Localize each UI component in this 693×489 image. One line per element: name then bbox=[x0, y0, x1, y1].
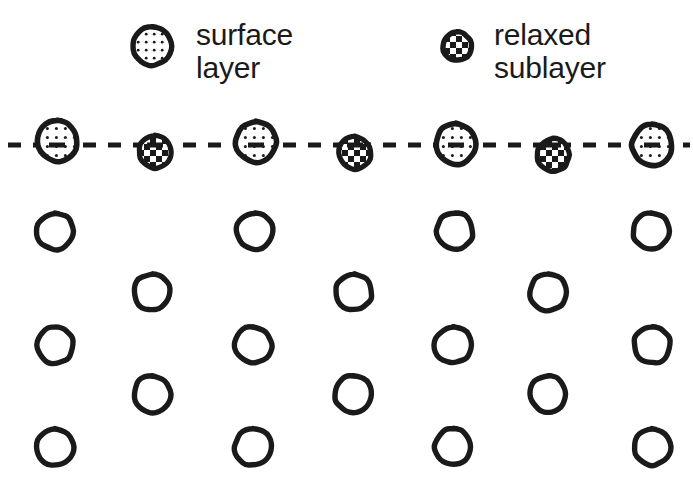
bulk-atom bbox=[634, 327, 670, 363]
bulk-row-3 bbox=[37, 327, 670, 364]
bulk-atom bbox=[530, 376, 566, 413]
bulk-atom bbox=[37, 213, 74, 250]
bulk-atom bbox=[236, 213, 273, 250]
bulk-row-4 bbox=[134, 376, 565, 413]
bulk-atom bbox=[336, 274, 372, 310]
bulk-row-1 bbox=[37, 213, 670, 250]
bulk-atom bbox=[134, 376, 171, 413]
bulk-lattice-rows bbox=[37, 213, 672, 466]
bulk-row-5 bbox=[37, 429, 671, 466]
bulk-row-2 bbox=[134, 274, 566, 311]
surface-layer-atom bbox=[37, 120, 76, 162]
relaxed-sublayer-atom bbox=[339, 136, 371, 169]
bulk-atom bbox=[434, 327, 471, 363]
bulk-atom bbox=[434, 429, 470, 465]
checkered-circle-icon bbox=[443, 32, 472, 60]
legend-label-relaxed-sublayer: relaxed sublayer bbox=[494, 18, 606, 84]
bulk-atom bbox=[234, 327, 272, 363]
bulk-atom bbox=[335, 376, 371, 413]
bulk-atom bbox=[134, 274, 170, 310]
legend-label-surface-layer: surface layer bbox=[196, 18, 293, 84]
surface-relaxation-figure: surface layer relaxed sublayer bbox=[0, 0, 693, 489]
bulk-atom bbox=[635, 429, 671, 466]
legend-swatches bbox=[133, 27, 472, 66]
bulk-atom bbox=[436, 213, 472, 249]
surface-row bbox=[37, 120, 671, 171]
bulk-atom bbox=[530, 274, 567, 311]
bulk-atom bbox=[37, 429, 75, 466]
stippled-circle-icon bbox=[133, 27, 172, 66]
relaxed-sublayer-atom bbox=[139, 135, 171, 168]
bulk-atom bbox=[633, 213, 669, 249]
bulk-atom bbox=[37, 327, 73, 364]
bulk-atom bbox=[234, 429, 271, 465]
surface-layer-atom bbox=[235, 121, 276, 163]
